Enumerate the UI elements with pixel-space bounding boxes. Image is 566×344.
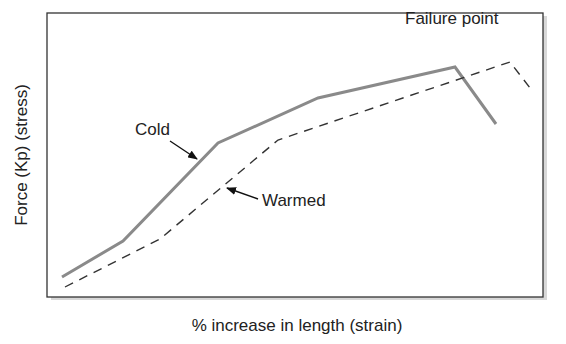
- cold-label: Cold: [135, 120, 170, 139]
- failure-point-label: Failure point: [405, 9, 499, 28]
- plot-frame: [47, 13, 543, 297]
- x-axis-label: % increase in length (strain): [192, 316, 403, 335]
- stress-strain-chart: Cold Warmed Failure point % increase in …: [0, 0, 566, 344]
- y-axis-label: Force (Kp) (stress): [12, 84, 31, 226]
- warmed-label: Warmed: [262, 191, 326, 210]
